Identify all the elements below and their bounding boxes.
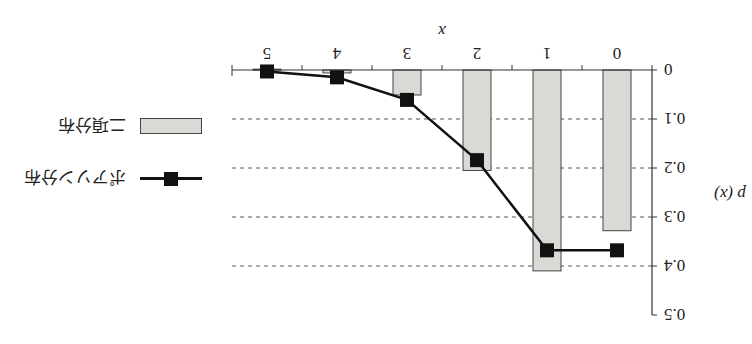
line-poisson [267,71,617,250]
legend-item-binomial: 二項分布 [2,112,202,142]
x-tick-label: 3 [403,44,412,63]
x-axis-title: x [438,22,447,41]
x-tick-label: 4 [332,44,341,63]
marker-poisson [540,243,554,257]
marker-poisson [330,70,344,84]
legend: ポアソン分布 二項分布 [2,90,202,194]
bar-swatch-icon [140,116,202,138]
legend-label-binomial: 二項分布 [58,115,126,140]
x-tick-label: 0 [613,44,622,63]
legend-item-poisson: ポアソン分布 [2,164,202,194]
bar-binomial [603,70,631,231]
y-axis-title: p (x) [714,185,747,204]
marker-poisson [610,243,624,257]
legend-label-poisson: ポアソン分布 [24,167,126,192]
bar-binomial [393,70,421,95]
marker-poisson [470,153,484,167]
y-tick-label: 0.5 [664,305,685,324]
marker-poisson [260,64,274,78]
marker-poisson [400,93,414,107]
y-tick-label: 0.3 [664,207,685,226]
y-tick-label: 0.1 [664,109,685,128]
y-tick-label: 0.4 [664,256,686,275]
y-tick-label: 0.2 [664,158,685,177]
y-tick-label: 0 [664,60,673,79]
bar-binomial [533,70,561,271]
line-marker-icon [140,168,202,190]
chart-stage: 00.10.20.30.40.5012345xp (x) ポアソン分布 二項分布 [0,0,752,344]
x-tick-label: 2 [473,44,482,63]
x-tick-label: 5 [263,44,272,63]
x-tick-label: 1 [543,44,552,63]
